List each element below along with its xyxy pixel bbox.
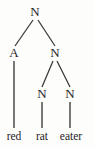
tree-node-adj: A [0,46,34,59]
edge-root-adj [15,20,33,46]
tree-node-n-eater: N [50,87,90,100]
tree-edges-layer [0,0,94,147]
tree-node-root: N [15,5,55,18]
tree-leaf-leaf-eater: eater [46,131,94,143]
edge-nmid-nrat [42,61,53,87]
edge-root-nmid [38,20,55,46]
edge-group [14,20,70,128]
tree-node-n-mid: N [35,46,75,59]
parse-tree-figure: NANNN redrateater [0,0,94,147]
edge-nmid-neater [57,61,70,87]
